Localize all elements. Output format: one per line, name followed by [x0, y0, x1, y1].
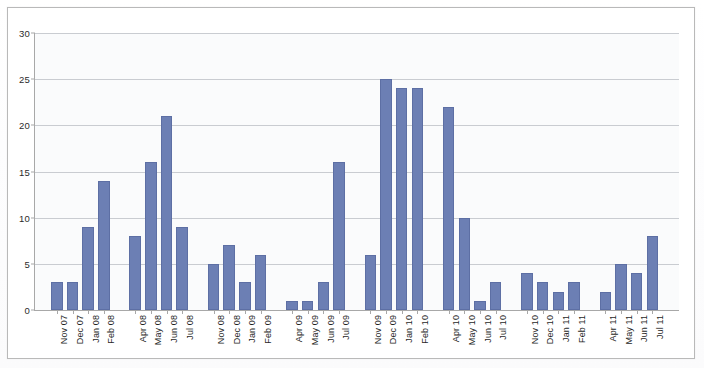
- x-axis-label: Apr 08: [138, 315, 148, 342]
- x-axis-labels: Nov 07Dec 07Jan 08Feb 08Apr 08May 08Jun …: [34, 315, 679, 367]
- bar[interactable]: [615, 264, 627, 310]
- chart-screenshot: 051015202530 Nov 07Dec 07Jan 08Feb 08Apr…: [0, 0, 704, 368]
- x-tickmark: [370, 310, 371, 314]
- bar[interactable]: [161, 116, 173, 310]
- bar[interactable]: [302, 301, 314, 310]
- x-tickmark: [464, 310, 465, 314]
- x-axis-label: Nov 07: [59, 315, 69, 344]
- x-tickmark: [480, 310, 481, 314]
- y-tick-label: 20: [19, 120, 30, 131]
- x-axis-label: Apr 11: [608, 315, 618, 341]
- x-tickmark: [214, 310, 215, 314]
- x-tickmark: [229, 310, 230, 314]
- x-tickmark: [402, 310, 403, 314]
- x-tickmark: [57, 310, 58, 314]
- bar[interactable]: [380, 79, 392, 310]
- x-axis-label: Jan 10: [404, 315, 414, 343]
- bars-layer: [35, 33, 679, 310]
- x-axis-label: May 09: [310, 315, 320, 345]
- x-axis-label: Feb 10: [420, 315, 430, 344]
- x-axis-label: Jun 08: [169, 315, 179, 343]
- x-axis-label: Nov 10: [530, 315, 540, 344]
- gridline-0: [35, 310, 679, 311]
- x-axis-label: Apr 10: [451, 315, 461, 342]
- x-axis-label: Jul 11: [655, 315, 665, 339]
- x-tickmark: [652, 310, 653, 314]
- x-axis-label: Feb 09: [263, 315, 273, 344]
- bar[interactable]: [223, 245, 235, 310]
- x-axis-label: Dec 08: [232, 315, 242, 344]
- bar[interactable]: [459, 218, 471, 310]
- x-tickmark: [245, 310, 246, 314]
- bar[interactable]: [82, 227, 94, 310]
- x-tickmark: [496, 310, 497, 314]
- x-tickmark: [621, 310, 622, 314]
- bar[interactable]: [600, 292, 612, 310]
- x-axis-label: Jan 08: [91, 315, 101, 343]
- bar[interactable]: [631, 273, 643, 310]
- x-axis-label: Nov 08: [216, 315, 226, 344]
- bar[interactable]: [521, 273, 533, 310]
- y-tick-label: 5: [25, 258, 30, 269]
- x-axis-label: Jul 08: [185, 315, 195, 340]
- bar[interactable]: [474, 301, 486, 310]
- bar[interactable]: [98, 181, 110, 310]
- y-tick-label: 10: [19, 212, 30, 223]
- bar[interactable]: [239, 282, 251, 310]
- x-axis-label: Jul 09: [341, 315, 351, 340]
- x-tickmark: [574, 310, 575, 314]
- bar[interactable]: [412, 88, 424, 310]
- x-tickmark: [339, 310, 340, 314]
- bar[interactable]: [318, 282, 330, 310]
- bar[interactable]: [129, 236, 141, 310]
- bar[interactable]: [490, 282, 502, 310]
- x-tickmark: [605, 310, 606, 314]
- x-tickmark: [292, 310, 293, 314]
- x-axis-label: Dec 09: [388, 315, 398, 344]
- y-tick-label: 0: [25, 305, 30, 316]
- x-axis-label: Dec 10: [545, 315, 555, 344]
- bar[interactable]: [145, 162, 157, 310]
- bar-chart: 051015202530 Nov 07Dec 07Jan 08Feb 08Apr…: [7, 7, 695, 359]
- bar[interactable]: [51, 282, 63, 310]
- x-tickmark: [73, 310, 74, 314]
- bar[interactable]: [286, 301, 298, 310]
- x-tickmark: [558, 310, 559, 314]
- x-tickmark: [182, 310, 183, 314]
- bar[interactable]: [333, 162, 345, 310]
- x-axis-label: Jul 10: [498, 315, 508, 340]
- x-axis-label: Nov 09: [373, 315, 383, 344]
- x-tickmark: [261, 310, 262, 314]
- x-tickmark: [167, 310, 168, 314]
- bar[interactable]: [568, 282, 580, 310]
- y-tick-label: 30: [19, 28, 30, 39]
- y-tick-label: 25: [19, 74, 30, 85]
- x-tickmark: [308, 310, 309, 314]
- x-tickmark: [527, 310, 528, 314]
- x-tickmark: [88, 310, 89, 314]
- x-tickmark: [449, 310, 450, 314]
- bar[interactable]: [396, 88, 408, 310]
- y-tick-label: 15: [19, 166, 30, 177]
- bar[interactable]: [537, 282, 549, 310]
- bar[interactable]: [443, 107, 455, 310]
- x-tickmark: [543, 310, 544, 314]
- x-axis-label: Dec 07: [75, 315, 85, 344]
- bar[interactable]: [365, 255, 377, 310]
- bar[interactable]: [255, 255, 267, 310]
- bar[interactable]: [647, 236, 659, 310]
- bar[interactable]: [208, 264, 220, 310]
- x-axis-label: Apr 09: [294, 315, 304, 342]
- x-tickmark: [637, 310, 638, 314]
- bar[interactable]: [553, 292, 565, 310]
- x-axis-label: May 10: [467, 315, 477, 345]
- bar[interactable]: [67, 282, 79, 310]
- x-axis-label: Feb 08: [106, 315, 116, 344]
- x-tickmark: [151, 310, 152, 314]
- x-axis-label: Jun 11: [639, 315, 649, 342]
- x-tickmark: [135, 310, 136, 314]
- bar[interactable]: [176, 227, 188, 310]
- x-tickmark: [386, 310, 387, 314]
- x-axis-label: Jan 11: [561, 315, 571, 342]
- x-axis-label: May 11: [624, 315, 634, 344]
